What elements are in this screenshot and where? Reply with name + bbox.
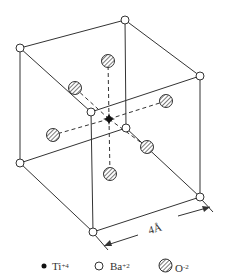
filled-dot-icon [40, 262, 48, 270]
legend-element: Ti [52, 260, 61, 272]
o-atom [104, 168, 117, 181]
legend-element: O [175, 262, 183, 274]
bond-bottom [109, 119, 110, 174]
legend-charge: -2 [183, 263, 189, 271]
legend-item-ba: Ba+2 [94, 260, 130, 272]
ba-atom [196, 193, 204, 201]
legend-charge: +2 [122, 262, 129, 270]
cube-edges [20, 20, 200, 232]
edge [126, 128, 200, 197]
o-atom [69, 82, 82, 95]
barium-atoms [16, 16, 204, 236]
o-atom [160, 95, 173, 108]
legend-element: Ba [110, 260, 122, 272]
edge [125, 20, 200, 76]
legend-item-ti: Ti+4 [40, 260, 69, 272]
ba-atom [16, 44, 24, 52]
edge [91, 76, 200, 112]
legend-charge: +4 [61, 262, 68, 270]
o-atom [47, 129, 60, 142]
titanium-atom [103, 113, 115, 125]
bond-top [108, 61, 109, 119]
ba-atom [196, 72, 204, 80]
arrowhead-left [104, 240, 112, 246]
ti-star-marker [103, 113, 115, 125]
dimension-indicator: 4Å [95, 200, 213, 250]
open-circle-icon [94, 261, 104, 271]
hatched-circle-icon [158, 258, 173, 273]
perovskite-unit-cell-diagram: 4Å [0, 0, 230, 280]
extension-line [95, 235, 108, 250]
edge [20, 163, 93, 232]
dimension-label: 4Å [147, 221, 163, 236]
edge [125, 20, 126, 128]
edge [20, 20, 125, 48]
o-atom [141, 141, 154, 154]
o-atom [102, 55, 115, 68]
ba-atom [89, 228, 97, 236]
edge [20, 48, 91, 112]
legend: Ti+4 Ba+2 O-2 [0, 258, 230, 278]
legend-item-o: O-2 [158, 256, 189, 274]
bond-left [53, 119, 109, 135]
arrowhead-right [202, 206, 210, 212]
ba-atom [16, 159, 24, 167]
ba-atom [87, 108, 95, 116]
ba-atom [122, 124, 130, 132]
edge [91, 112, 93, 232]
ba-atom [121, 16, 129, 24]
